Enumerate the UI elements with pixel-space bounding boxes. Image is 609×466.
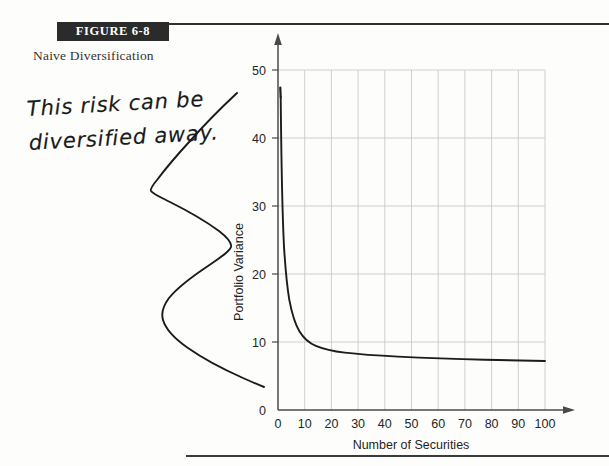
x-tick-labels: 0 10 20 30 40 50 60 70 80 90 100 bbox=[275, 417, 556, 431]
x-tick-label-100: 100 bbox=[535, 417, 556, 431]
y-tick-label-10: 10 bbox=[252, 336, 266, 350]
x-tick-label-0: 0 bbox=[275, 417, 282, 431]
x-axis-title: Number of Securities bbox=[353, 438, 470, 452]
y-axis-title: Portfolio Variance bbox=[232, 223, 246, 321]
y-tick-label-30: 30 bbox=[252, 200, 266, 214]
x-tick-label-70: 70 bbox=[458, 417, 472, 431]
x-tick-label-30: 30 bbox=[351, 417, 365, 431]
x-tick-label-90: 90 bbox=[511, 417, 525, 431]
y-tick-label-40: 40 bbox=[252, 132, 266, 146]
x-tick-label-80: 80 bbox=[485, 417, 499, 431]
x-tick-label-20: 20 bbox=[324, 417, 338, 431]
y-tick-marks bbox=[272, 70, 278, 342]
x-tick-label-50: 50 bbox=[405, 417, 419, 431]
portfolio-variance-chart: 50 40 30 20 10 0 0 10 20 30 40 50 60 70 … bbox=[0, 0, 609, 466]
x-tick-label-60: 60 bbox=[431, 417, 445, 431]
x-tick-label-10: 10 bbox=[298, 417, 312, 431]
x-tick-label-40: 40 bbox=[378, 417, 392, 431]
grid-lines-vertical bbox=[305, 70, 545, 410]
y-tick-label-0: 0 bbox=[259, 404, 266, 418]
y-tick-label-20: 20 bbox=[252, 268, 266, 282]
figure-page: FIGURE 6-8 Naive Diversification bbox=[0, 0, 609, 466]
y-tick-label-50: 50 bbox=[252, 64, 266, 78]
footer-divider bbox=[186, 455, 609, 457]
y-tick-labels: 50 40 30 20 10 0 bbox=[252, 64, 266, 418]
variance-curve bbox=[281, 97, 545, 361]
chart-container: 50 40 30 20 10 0 0 10 20 30 40 50 60 70 … bbox=[0, 0, 609, 466]
x-axis bbox=[278, 406, 575, 414]
